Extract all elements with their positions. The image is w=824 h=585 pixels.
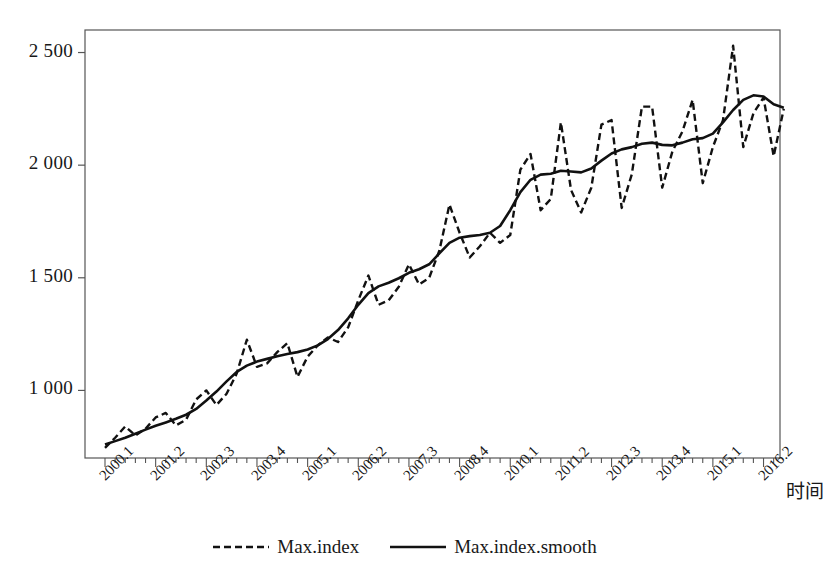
x-axis-title: 时间	[786, 476, 824, 503]
y-axis-tick-label: 2 000	[29, 152, 73, 174]
y-axis-tick-label: 2 500	[29, 40, 73, 62]
legend-label: Max.index.smooth	[454, 536, 597, 558]
y-axis-tick-label: 1 000	[29, 377, 73, 399]
y-axis-tick-label: 1 500	[29, 265, 73, 287]
data-series-group	[105, 46, 784, 448]
dashed-line-icon	[212, 541, 270, 553]
legend-label: Max.index	[277, 536, 359, 558]
legend-item-Max-index[interactable]: Max.index	[212, 536, 359, 558]
chart-legend: Max.indexMax.index.smooth	[0, 536, 809, 558]
solid-line-icon	[389, 541, 447, 553]
plot-frame	[85, 30, 780, 458]
legend-item-Max-index-smooth[interactable]: Max.index.smooth	[389, 536, 597, 558]
y-axis-ticks	[78, 53, 85, 391]
